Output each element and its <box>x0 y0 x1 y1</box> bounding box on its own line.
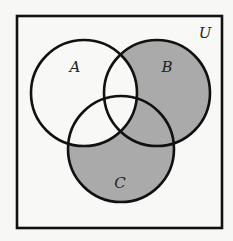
venn-diagram: A B C U <box>0 0 233 241</box>
set-a-label: A <box>68 58 81 76</box>
universe-label: U <box>199 24 213 42</box>
set-c-label: C <box>114 174 126 192</box>
set-b-label: B <box>160 58 172 76</box>
